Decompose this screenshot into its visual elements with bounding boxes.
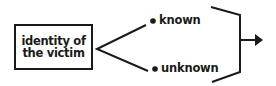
bullet-unknown-icon bbox=[152, 66, 158, 72]
branch-known-label: known bbox=[159, 13, 201, 27]
arrow-head-icon bbox=[255, 34, 263, 46]
branch-lines bbox=[97, 25, 148, 71]
identity-of-victim-box: identity of the victim bbox=[14, 24, 93, 70]
box-line-2: the victim bbox=[22, 47, 84, 59]
branch-unknown-label: unknown bbox=[161, 61, 219, 75]
bullet-known-icon bbox=[150, 18, 156, 24]
